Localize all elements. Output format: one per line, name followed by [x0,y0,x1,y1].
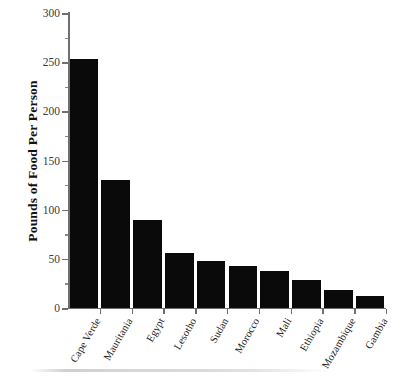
y-tick-label: 50 [49,253,61,265]
bar [133,220,162,308]
chart-page: Pounds of Food Per Person 05010015020025… [0,0,400,378]
y-tick-major [62,62,68,64]
x-category-label: Lesotho [172,316,199,351]
y-tick-minor [65,234,69,235]
bar [260,271,289,308]
y-tick-major [62,259,68,261]
y-tick-minor [65,283,69,284]
x-tick [386,309,387,314]
y-tick-minor [65,87,69,88]
y-tick-major [62,210,68,212]
x-tick [195,309,196,314]
bar [70,59,99,308]
bar [197,261,226,308]
y-tick-major [62,161,68,163]
y-tick-major [62,111,68,113]
y-tick-label: 200 [43,105,60,117]
y-tick-label: 300 [43,7,60,19]
y-tick-label: 150 [43,155,60,167]
x-tick [354,309,355,314]
y-tick-minor [65,136,69,137]
x-category-label: Morocco [233,316,262,355]
x-tick [163,309,164,314]
bar [292,280,321,308]
bar [229,266,258,308]
x-category-label: Gambia [363,316,389,351]
x-tick [259,309,260,314]
y-tick-label: 0 [54,302,60,314]
x-tick [132,309,133,314]
y-tick-label: 250 [43,56,60,68]
x-category-label: Egypt [144,316,166,344]
x-tick [100,309,101,314]
y-tick-major [62,13,68,15]
x-category-label: Mali [274,316,294,339]
x-category-label: Mauritania [102,316,135,362]
y-tick-major [62,308,68,310]
y-tick-minor [65,185,69,186]
y-tick-minor [65,38,69,39]
x-category-label: Cape Verde [69,316,103,364]
scan-artifact [30,369,330,372]
plot-area: 050100150200250300 [68,13,386,308]
bar [356,296,385,308]
x-tick [291,309,292,314]
bar [324,290,353,308]
bar [101,180,130,308]
x-category-label: Sudan [207,316,230,345]
x-tick [227,309,228,314]
x-category-label: Mozambique [320,316,358,370]
x-category-label: Ethiopia [298,316,326,353]
x-tick [322,309,323,314]
y-tick-label: 100 [43,204,60,216]
bar [165,253,194,308]
